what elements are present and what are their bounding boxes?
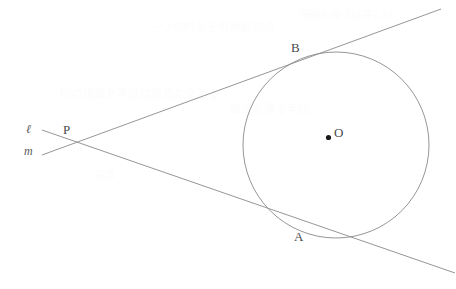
geometry-figure: 一つの円とその外部の点接線の長さは等しい円の接線と半径は垂直に交わる接点を通る半… (0, 0, 456, 289)
tangent-line-l (42, 9, 441, 155)
point-label-b: B (291, 41, 300, 54)
point-label-p: P (63, 123, 70, 136)
point-label-o: O (334, 126, 343, 139)
center-point-dot (326, 135, 331, 140)
circle-outline (243, 52, 429, 238)
line-label-m: m (24, 145, 33, 157)
tangent-circle-diagram (0, 0, 456, 289)
point-label-a: A (294, 230, 303, 243)
tangent-line-m (42, 130, 455, 273)
line-label-l: ℓ (26, 123, 31, 135)
